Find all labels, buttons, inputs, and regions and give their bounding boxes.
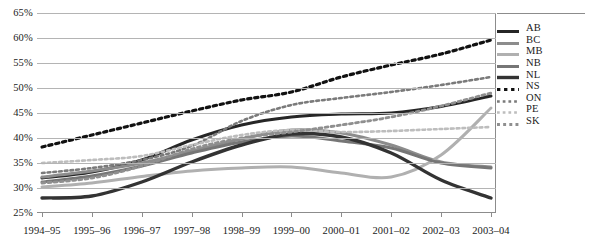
legend-item-nl[interactable]: NL <box>497 69 540 80</box>
y-tick-label: 40% <box>13 133 33 144</box>
x-tick-label: 1994–95 <box>23 226 60 237</box>
legend-label: AB <box>526 23 541 34</box>
plot-area <box>37 13 496 213</box>
grid-line <box>37 63 496 64</box>
legend-swatch-pe <box>497 104 519 115</box>
x-tick-label: 2002–03 <box>422 226 459 237</box>
legend-item-nb[interactable]: NB <box>497 58 541 69</box>
y-tick-label: 65% <box>13 8 33 19</box>
x-tick-label: 1996–97 <box>123 226 160 237</box>
y-tick-label: 25% <box>13 208 33 219</box>
legend-item-ns[interactable]: NS <box>497 81 540 92</box>
y-tick-label: 60% <box>13 33 33 44</box>
legend-swatch-on <box>497 93 519 104</box>
x-tick-mark <box>291 213 292 217</box>
y-tick-label: 30% <box>13 183 33 194</box>
x-tick-label: 1995–96 <box>73 226 110 237</box>
grid-line <box>37 88 496 89</box>
x-tick-mark <box>391 213 392 217</box>
legend-item-on[interactable]: ON <box>497 93 542 104</box>
x-tick-label: 2001–02 <box>372 226 409 237</box>
legend-divider <box>497 13 585 14</box>
y-tick-label: 55% <box>13 58 33 69</box>
x-tick-mark <box>42 213 43 217</box>
legend-label: MB <box>526 46 543 57</box>
grid-line <box>37 138 496 139</box>
grid-line <box>37 13 496 14</box>
legend-item-pe[interactable]: PE <box>497 104 539 115</box>
legend-label: BC <box>526 35 540 46</box>
legend-label: PE <box>526 104 539 115</box>
legend-label: NB <box>526 58 541 69</box>
x-tick-mark <box>242 213 243 217</box>
y-axis: 25%30%35%40%45%50%55%60%65% <box>0 0 36 220</box>
legend-item-bc[interactable]: BC <box>497 35 540 46</box>
x-tick-mark <box>341 213 342 217</box>
legend-label: ON <box>526 93 542 104</box>
x-tick-mark <box>192 213 193 217</box>
grid-line <box>37 188 496 189</box>
legend-swatch-nb <box>497 58 519 69</box>
grid-line <box>37 113 496 114</box>
legend-label: SK <box>526 116 540 127</box>
legend: ABBCMBNBNLNSONPESK <box>497 13 595 139</box>
x-tick-label: 2000–01 <box>323 226 360 237</box>
legend-swatch-bc <box>497 35 519 46</box>
legend-item-sk[interactable]: SK <box>497 116 540 127</box>
x-tick-mark <box>142 213 143 217</box>
x-tick-label: 2003–04 <box>472 226 509 237</box>
legend-swatch-ab <box>497 23 519 34</box>
legend-item-ab[interactable]: AB <box>497 23 541 34</box>
legend-swatch-nl <box>497 69 519 80</box>
grid-line <box>37 38 496 39</box>
legend-swatch-mb <box>497 46 519 57</box>
legend-swatch-sk <box>497 116 519 127</box>
legend-label: NL <box>526 70 540 81</box>
legend-item-mb[interactable]: MB <box>497 46 543 57</box>
x-tick-label: 1997–98 <box>173 226 210 237</box>
x-tick-label: 1999–00 <box>273 226 310 237</box>
x-tick-mark <box>491 213 492 217</box>
y-tick-label: 45% <box>13 108 33 119</box>
x-tick-label: 1998–99 <box>223 226 260 237</box>
y-tick-label: 35% <box>13 158 33 169</box>
x-tick-mark <box>92 213 93 217</box>
line-chart: 25%30%35%40%45%50%55%60%65% 1994–951995–… <box>0 0 597 246</box>
y-tick-label: 50% <box>13 83 33 94</box>
grid-line <box>37 163 496 164</box>
x-tick-mark <box>441 213 442 217</box>
legend-swatch-ns <box>497 81 519 92</box>
legend-label: NS <box>526 81 540 92</box>
x-axis: 1994–951995–961996–971997–981998–991999–… <box>37 222 496 242</box>
